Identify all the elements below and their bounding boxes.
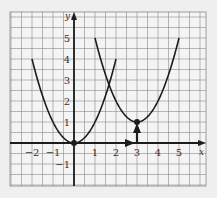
- x-tick-label: −1: [46, 147, 61, 158]
- y-tick-label: 1: [64, 117, 70, 128]
- vertex-point: [134, 119, 140, 125]
- y-tick-label: 3: [64, 75, 70, 86]
- x-tick-label: 4: [155, 147, 161, 158]
- y-tick-label: 5: [64, 33, 70, 44]
- y-axis-label: y: [64, 11, 71, 21]
- x-tick-label: 2: [113, 147, 119, 158]
- x-tick-label: −2: [25, 147, 40, 158]
- x-tick-label: 5: [176, 147, 182, 158]
- x-axis-label: x: [199, 147, 204, 157]
- grid-lines: [10, 12, 206, 186]
- y-tick-label: −1: [55, 159, 70, 170]
- x-tick-label: 3: [134, 147, 140, 158]
- function-graph: yx −2−112345−112345: [0, 0, 217, 198]
- x-tick-label: 1: [92, 147, 98, 158]
- y-tick-label: 4: [64, 54, 70, 65]
- vertex-point: [71, 140, 77, 146]
- y-tick-label: 2: [64, 96, 70, 107]
